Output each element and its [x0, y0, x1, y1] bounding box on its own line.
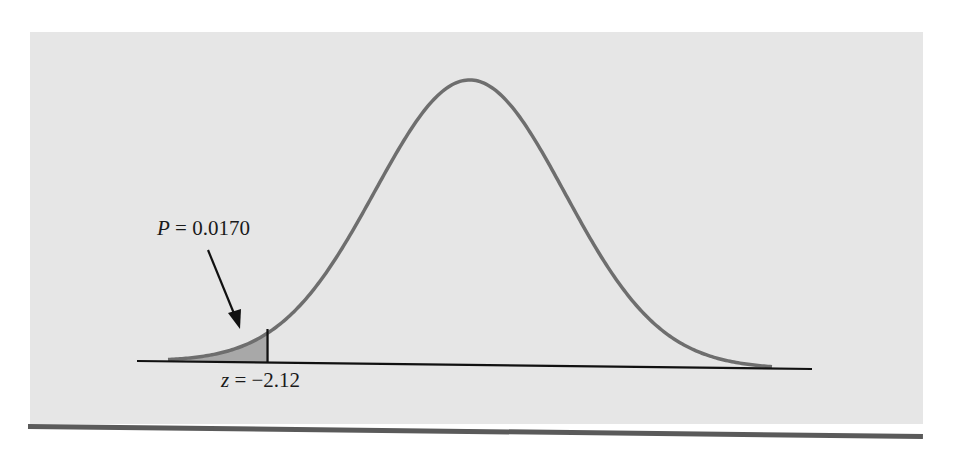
- p-symbol: P: [157, 216, 170, 240]
- p-value: = 0.0170: [170, 216, 250, 240]
- z-score-label: z = −2.12: [221, 368, 300, 393]
- p-value-label: P = 0.0170: [157, 216, 250, 241]
- normal-curve-plot: [0, 0, 958, 467]
- arrow-head-icon: [228, 309, 241, 329]
- z-value: = −2.12: [229, 368, 300, 392]
- z-symbol: z: [221, 368, 229, 392]
- arrow: [208, 250, 241, 329]
- normal-curve: [168, 80, 772, 367]
